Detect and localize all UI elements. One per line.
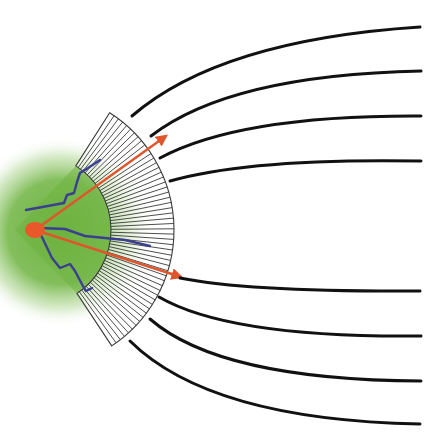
collimator-diagram bbox=[0, 0, 444, 436]
radiation-source bbox=[25, 222, 45, 238]
field-line-8 bbox=[130, 341, 420, 424]
field-line-7 bbox=[150, 319, 421, 381]
field-line-5 bbox=[180, 278, 420, 291]
field-line-3 bbox=[160, 116, 421, 158]
field-line-4 bbox=[170, 161, 421, 181]
diagram-canvas bbox=[0, 0, 444, 436]
field-line-6 bbox=[159, 297, 421, 336]
field-line-2 bbox=[151, 71, 421, 136]
collimator-slat bbox=[111, 229, 174, 230]
source-dot bbox=[25, 222, 45, 238]
